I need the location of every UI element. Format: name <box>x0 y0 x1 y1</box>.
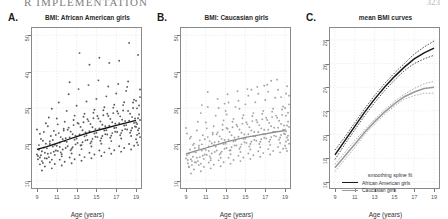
scatter-point <box>219 135 221 137</box>
scatter-point <box>99 121 101 123</box>
panel-a-xaxis: 91113151719 <box>31 189 142 203</box>
scatter-point <box>107 115 109 117</box>
scatter-point <box>202 155 204 157</box>
scatter-point <box>257 93 259 95</box>
scatter-point <box>94 136 96 138</box>
scatter-point <box>37 158 39 160</box>
scatter-point <box>214 141 216 143</box>
panel-a-yaxis: 1020304050 <box>14 27 31 189</box>
scatter-point <box>250 89 252 91</box>
scatter-point <box>270 136 272 138</box>
scatter-point <box>259 141 261 143</box>
scatter-point <box>189 138 191 140</box>
scatter-point <box>211 142 213 144</box>
scatter-point <box>39 133 41 135</box>
scatter-point <box>101 124 103 126</box>
scatter-point <box>104 133 106 135</box>
scatter-point <box>138 105 140 107</box>
scatter-point <box>255 119 257 121</box>
scatter-point <box>241 132 243 134</box>
scatter-point <box>272 150 274 152</box>
scatter-points <box>185 79 290 175</box>
scatter-point <box>53 151 55 153</box>
scatter-point <box>78 88 80 90</box>
scatter-point <box>237 90 239 92</box>
scatter-point <box>227 93 229 95</box>
panel-c-plot-area <box>329 27 440 189</box>
scatter-point <box>287 135 289 137</box>
scatter-point <box>46 158 48 160</box>
x-tick-label: 11 <box>203 194 209 200</box>
scatter-point <box>136 123 138 125</box>
scatter-point <box>113 104 115 106</box>
scatter-point <box>109 118 111 120</box>
running-head: R IMPLEMENTATION <box>24 0 148 8</box>
scatter-point <box>71 148 73 150</box>
scatter-point <box>117 113 119 115</box>
scatter-point <box>81 160 83 162</box>
scatter-point <box>88 120 90 122</box>
scatter-point <box>89 64 91 66</box>
scatter-point <box>271 111 273 113</box>
scatter-point <box>119 134 121 136</box>
scatter-point <box>108 147 110 149</box>
scatter-point <box>50 152 52 154</box>
scatter-point <box>253 131 255 133</box>
scatter-point <box>285 141 287 143</box>
scatter-point <box>80 126 82 128</box>
scatter-point <box>74 158 76 160</box>
scatter-point <box>277 146 279 148</box>
panel-b-letter: B. <box>157 12 167 23</box>
scatter-point <box>120 132 122 134</box>
scatter-point <box>59 146 61 148</box>
scatter-point <box>187 159 189 161</box>
scatter-point <box>264 99 266 101</box>
scatter-point <box>41 170 43 172</box>
scatter-point <box>243 141 245 143</box>
scatter-point <box>239 108 241 110</box>
scatter-point <box>241 143 243 145</box>
scatter-point <box>200 112 202 114</box>
scatter-point <box>214 151 216 153</box>
scatter-point <box>63 130 65 132</box>
scatter-point <box>67 129 69 131</box>
legend-label-caucasian: Caucasian girls <box>362 187 396 193</box>
scatter-point <box>47 153 49 155</box>
scatter-point <box>61 153 63 155</box>
x-tick-label: 15 <box>242 194 248 200</box>
scatter-point <box>228 139 230 141</box>
scatter-point <box>268 141 270 143</box>
scatter-point <box>186 133 188 135</box>
scatter-point <box>75 143 77 145</box>
scatter-point <box>81 148 83 150</box>
scatter-point <box>206 127 208 129</box>
scatter-point <box>61 155 63 157</box>
scatter-point <box>60 151 62 153</box>
panel-a: A. BMI: African American girls Body Mass… <box>0 10 149 219</box>
scatter-point <box>38 144 40 146</box>
scatter-point <box>213 164 215 166</box>
scatter-point <box>218 107 220 109</box>
scatter-point <box>230 153 232 155</box>
scatter-point <box>103 130 105 132</box>
scatter-point <box>57 123 59 125</box>
scatter-point <box>215 115 217 117</box>
scatter-point <box>208 150 210 152</box>
x-tick-label: 15 <box>391 194 397 200</box>
panel-b-xlabel: Age (years) <box>179 211 294 218</box>
scatter-point <box>37 155 39 157</box>
scatter-point <box>93 154 95 156</box>
x-tick-label: 11 <box>54 194 60 200</box>
scatter-point <box>125 90 127 92</box>
scatter-point <box>287 139 289 141</box>
scatter-point <box>92 126 94 128</box>
scatter-point <box>286 150 288 152</box>
scatter-point <box>216 150 218 152</box>
scatter-point <box>40 154 42 156</box>
scatter-point <box>131 116 133 118</box>
scatter-point <box>69 81 71 83</box>
scatter-point <box>105 95 107 97</box>
scatter-point <box>209 155 211 157</box>
scatter-point <box>81 144 83 146</box>
scatter-point <box>226 147 228 149</box>
